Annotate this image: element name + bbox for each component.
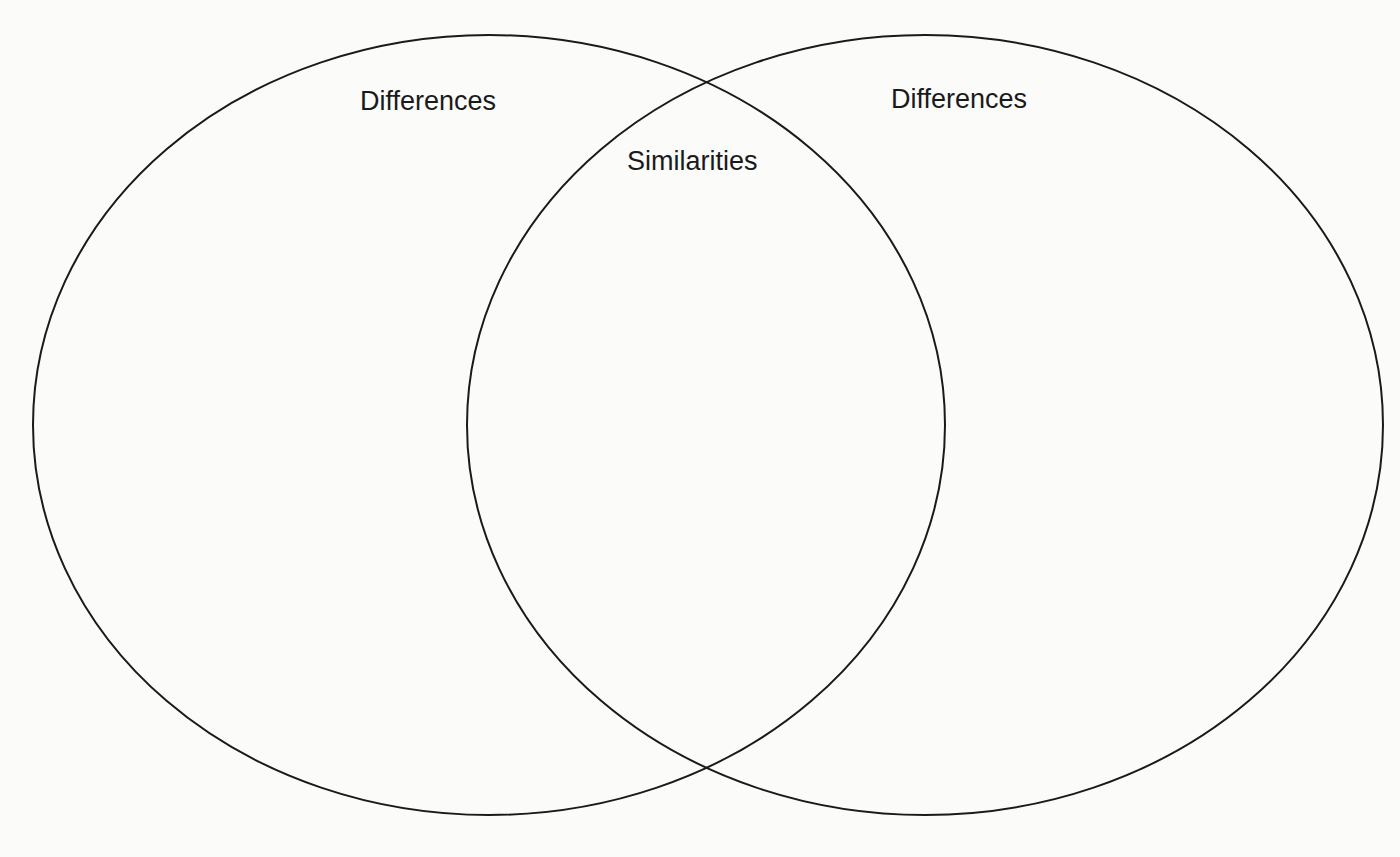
- left-differences-label: Differences: [360, 88, 496, 115]
- venn-diagram: Differences Similarities Differences: [0, 0, 1400, 857]
- right-circle: [467, 35, 1383, 815]
- left-circle: [33, 35, 945, 815]
- venn-circles: [0, 0, 1400, 857]
- right-differences-label: Differences: [891, 86, 1027, 113]
- similarities-label: Similarities: [627, 148, 758, 175]
